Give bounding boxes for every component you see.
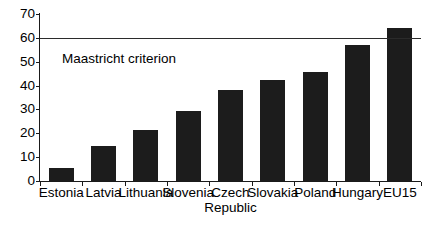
y-axis-tick-label: 70 bbox=[20, 7, 35, 21]
bar bbox=[303, 72, 328, 181]
y-axis-tick-label: 30 bbox=[20, 103, 35, 117]
y-axis-tick bbox=[36, 157, 40, 158]
y-axis-tick bbox=[36, 62, 40, 63]
bar bbox=[260, 80, 285, 181]
y-axis-tick-label: 20 bbox=[20, 127, 35, 141]
x-axis-label-line2: Republic bbox=[204, 201, 257, 216]
bar bbox=[218, 90, 243, 181]
y-axis-tick-label: 0 bbox=[27, 174, 35, 188]
y-axis-tick bbox=[36, 133, 40, 134]
maastricht-criterion-label: Maastricht criterion bbox=[62, 52, 176, 66]
y-axis-tick-label: 10 bbox=[20, 150, 35, 164]
x-axis-category-label: EU15 bbox=[383, 186, 417, 201]
bar bbox=[176, 111, 201, 181]
x-axis-tick bbox=[40, 182, 41, 186]
y-axis-tick bbox=[36, 109, 40, 110]
maastricht-criterion-line bbox=[40, 38, 421, 40]
y-axis-tick bbox=[36, 86, 40, 87]
bar bbox=[387, 28, 412, 181]
bar bbox=[133, 130, 158, 181]
y-axis-tick-label: 60 bbox=[20, 31, 35, 45]
x-axis-category-label: Latvia bbox=[85, 186, 121, 201]
plot-area: 010203040506070Maastricht criterion bbox=[40, 14, 421, 181]
y-axis-tick bbox=[36, 14, 40, 15]
bar bbox=[49, 168, 74, 181]
x-axis-category-label: Poland bbox=[294, 186, 336, 201]
y-axis-tick-label: 50 bbox=[20, 55, 35, 69]
x-axis-tick bbox=[421, 182, 422, 186]
bar-chart: 010203040506070Maastricht criterion Esto… bbox=[0, 0, 427, 225]
x-axis-category-label: Slovakia bbox=[247, 186, 298, 201]
y-axis-tick-label: 40 bbox=[20, 79, 35, 93]
bar bbox=[345, 45, 370, 181]
bar bbox=[91, 146, 116, 181]
x-axis-category-label: Estonia bbox=[39, 186, 84, 201]
x-axis-category-label: Hungary bbox=[332, 186, 383, 201]
